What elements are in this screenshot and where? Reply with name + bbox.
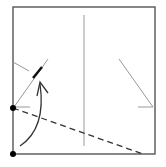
- left-thick-mark: [33, 67, 42, 78]
- arrow-head-icon: [37, 82, 48, 96]
- right-diagonal-crease: [119, 59, 153, 107]
- left-short-crease: [13, 62, 29, 71]
- left-diagonal-crease: [14, 59, 48, 107]
- origami-diagram: [0, 0, 166, 167]
- valley-fold-line: [13, 108, 143, 154]
- corner-point: [10, 151, 16, 157]
- reference-point: [10, 105, 16, 111]
